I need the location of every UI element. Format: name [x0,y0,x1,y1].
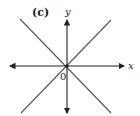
origin-point [66,65,69,68]
y-axis-label: y [64,6,71,17]
origin-label: 0 [60,71,66,82]
coordinate-diagram: (c) y x 0 [0,0,140,116]
x-axis-label: x [128,60,134,71]
panel-label: (c) [32,6,49,19]
